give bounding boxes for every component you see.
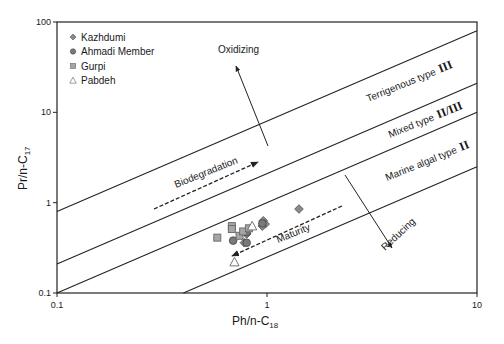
ahmadi-member-point [259, 220, 267, 228]
pabdeh-point [230, 257, 239, 266]
plot-frame [57, 22, 477, 293]
line-1x [57, 112, 477, 293]
legend-item: Gurpi [71, 61, 106, 72]
x-tick-label: 0.1 [51, 300, 64, 310]
gurpi-point [228, 226, 235, 233]
arrows [154, 66, 392, 256]
gurpi-point [214, 234, 221, 241]
biodegradation-label: Biodegradation [173, 154, 240, 189]
x-tick-label: 1 [264, 300, 269, 310]
line-2x [57, 83, 477, 264]
oxidizing-label: Oxidizing [218, 44, 259, 55]
y-axis-label: Pr/n-C17 [16, 146, 32, 190]
line-0.25x [183, 167, 477, 293]
kazhdumi-point [295, 205, 304, 214]
legend-item: Kazhdumi [70, 32, 125, 43]
y-tick-label: 0.1 [38, 288, 51, 298]
marine-algal-type-label: Marine algal typeII [383, 137, 472, 184]
legend-label: Ahmadi Member [81, 46, 155, 57]
maturity-label: Maturity [275, 221, 312, 245]
legend-label: Pabdeh [81, 75, 115, 86]
y-tick-label: 1 [46, 198, 51, 208]
ahmadi-member-point [243, 239, 251, 247]
legend-item: Pabdeh [70, 75, 116, 86]
diamond-icon [70, 34, 76, 40]
reducing-label: Reducing [379, 216, 417, 253]
x-axis-label: Ph/n-C18 [232, 314, 279, 330]
reducing-arrow [345, 175, 392, 248]
y-tick-label: 100 [36, 17, 51, 27]
legend-label: Kazhdumi [81, 32, 125, 43]
square-icon [71, 64, 76, 69]
circle-icon [70, 49, 75, 54]
oxidizing-arrow [236, 66, 268, 146]
legend-item: Ahmadi Member [70, 46, 155, 57]
legend-label: Gurpi [81, 61, 105, 72]
triangle-icon [70, 77, 76, 83]
terrigenous-type-label: Terrigenous typeIII [364, 57, 455, 105]
legend: KazhdumiAhmadi MemberGurpiPabdeh [70, 32, 155, 87]
y-tick-label: 10 [41, 107, 51, 117]
chart-canvas: 0.11100.1110100 Ph/n-C18 Pr/n-C17 Oxidiz… [0, 0, 504, 344]
x-tick-label: 10 [472, 300, 482, 310]
